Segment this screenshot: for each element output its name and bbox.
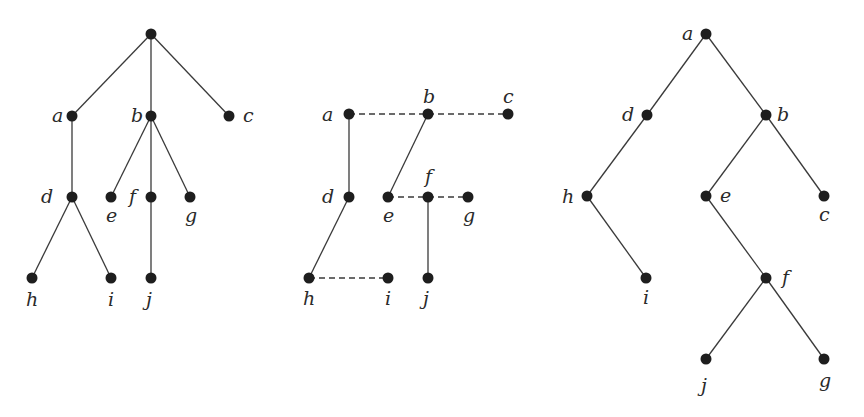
edge-a-b: [706, 34, 766, 115]
node-f: [761, 273, 772, 284]
node-h: [27, 273, 38, 284]
node-label-i: i: [643, 286, 649, 308]
node-label-i: i: [385, 287, 391, 309]
edge-d-h: [309, 197, 349, 278]
node-label-h: h: [303, 287, 315, 309]
node-label-c: c: [243, 104, 254, 126]
node-h: [582, 191, 593, 202]
node-label-b: b: [777, 103, 789, 125]
node-g: [463, 192, 474, 203]
node-c: [819, 191, 830, 202]
tree-diagrams-canvas: abcdefghij abcdefghij adbhecifjg: [0, 0, 864, 417]
node-label-d: d: [622, 103, 634, 125]
node-label-g: g: [819, 369, 831, 391]
node-label-f: f: [780, 266, 792, 288]
node-h: [304, 273, 315, 284]
edge-d-h: [587, 115, 647, 196]
node-label-e: e: [383, 204, 394, 226]
edge-b-c: [766, 115, 824, 196]
node-label-h: h: [562, 185, 574, 207]
node-label-d: d: [41, 185, 53, 207]
node-label-g: g: [463, 204, 475, 226]
node-label-f: f: [127, 185, 139, 207]
node-label-c: c: [819, 203, 830, 225]
node-label-a: a: [52, 104, 63, 126]
edge-b-e: [706, 115, 766, 196]
node-a: [67, 111, 78, 122]
edge-e-f: [706, 196, 766, 278]
node-b: [761, 110, 772, 121]
edge-h-i: [587, 196, 646, 278]
node-label-c: c: [503, 85, 514, 107]
node-i: [383, 273, 394, 284]
node-label-d: d: [322, 185, 334, 207]
edge-f-g: [766, 278, 824, 359]
node-j: [701, 354, 712, 365]
first-child-next-sibling-diagram: abcdefghij: [303, 85, 514, 309]
node-g: [819, 354, 830, 365]
node-label-j: j: [419, 287, 429, 309]
node-a: [344, 109, 355, 120]
node-b: [146, 111, 157, 122]
edge-d-h: [32, 197, 72, 278]
node-d: [67, 192, 78, 203]
node-d: [344, 192, 355, 203]
edge-a-d: [647, 34, 706, 115]
node-label-f: f: [423, 165, 435, 187]
node-c: [224, 111, 235, 122]
node-j: [146, 273, 157, 284]
edge-f-j: [706, 278, 766, 359]
node-label-j: j: [697, 374, 707, 396]
edge-b-g: [151, 116, 190, 197]
node-f: [146, 192, 157, 203]
node-label-h: h: [26, 288, 38, 310]
node-label-e: e: [106, 204, 117, 226]
node-label-e: e: [720, 184, 731, 206]
node-label-a: a: [682, 22, 693, 44]
node-j: [423, 273, 434, 284]
node-e: [106, 192, 117, 203]
node-i: [641, 273, 652, 284]
node-label-j: j: [142, 288, 152, 310]
edge-b-e: [388, 114, 428, 197]
binary-tree-diagram: adbhecifjg: [562, 22, 831, 396]
node-a: [701, 29, 712, 40]
node-g: [185, 192, 196, 203]
node-label-i: i: [108, 288, 114, 310]
node-label-b: b: [131, 104, 143, 126]
ordered-tree-diagram: abcdefghij: [26, 29, 254, 311]
node-b: [423, 109, 434, 120]
node-label-g: g: [185, 204, 197, 226]
node-e: [701, 191, 712, 202]
node-label-a: a: [322, 103, 333, 125]
edge-root-c: [151, 34, 229, 116]
node-f: [423, 192, 434, 203]
node-root: [146, 29, 157, 40]
node-e: [383, 192, 394, 203]
node-d: [642, 110, 653, 121]
node-label-b: b: [423, 85, 435, 107]
node-i: [106, 273, 117, 284]
node-c: [503, 109, 514, 120]
